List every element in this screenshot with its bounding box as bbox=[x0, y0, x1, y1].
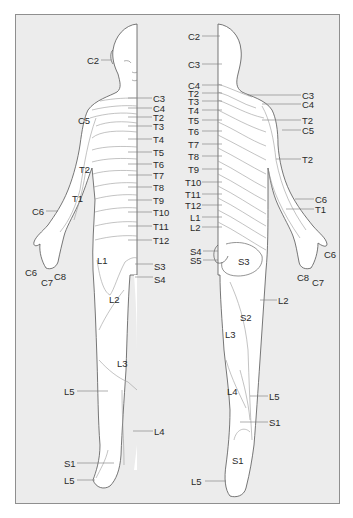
dermatome-label-l5: L5 bbox=[64, 387, 75, 397]
dermatome-label-l3: L3 bbox=[225, 330, 236, 340]
dermatome-label-t5: T5 bbox=[188, 116, 199, 126]
dermatome-label-t8: T8 bbox=[188, 152, 199, 162]
dermatome-label-t11: T11 bbox=[185, 190, 201, 200]
dermatome-label-c5: C5 bbox=[78, 116, 90, 126]
dermatome-label-c6: C6 bbox=[32, 207, 44, 217]
dermatome-label-c8: C8 bbox=[54, 272, 66, 282]
dermatome-label-s2: S2 bbox=[240, 313, 252, 323]
dermatome-label-c7: C7 bbox=[312, 278, 324, 288]
dermatome-label-t8: T8 bbox=[153, 183, 164, 193]
dermatome-label-t9: T9 bbox=[188, 165, 199, 175]
dermatome-label-t1: T1 bbox=[72, 194, 83, 204]
dermatome-label-t2: T2 bbox=[302, 155, 313, 165]
dermatome-label-t10: T10 bbox=[185, 178, 201, 188]
dermatome-label-s3: S3 bbox=[154, 262, 166, 272]
dermatome-label-l5: L5 bbox=[191, 477, 202, 487]
dermatome-label-c5: C5 bbox=[302, 126, 314, 136]
dermatome-label-l2: L2 bbox=[190, 223, 201, 233]
dermatome-label-t7: T7 bbox=[188, 140, 199, 150]
dermatome-illustration bbox=[0, 0, 353, 518]
dermatome-label-t9: T9 bbox=[153, 196, 164, 206]
dermatome-label-t6: T6 bbox=[188, 127, 199, 137]
dermatome-label-c8: C8 bbox=[297, 273, 309, 283]
dermatome-label-s1: S1 bbox=[232, 456, 244, 466]
dermatome-label-l2: L2 bbox=[278, 296, 289, 306]
dermatome-label-l4: L4 bbox=[227, 387, 238, 397]
dermatome-label-l3: L3 bbox=[117, 359, 128, 369]
dermatome-label-t6: T6 bbox=[153, 160, 164, 170]
dermatome-label-t10: T10 bbox=[153, 208, 169, 218]
dermatome-label-c7: C7 bbox=[41, 278, 53, 288]
dermatome-label-t11: T11 bbox=[153, 222, 169, 232]
dermatome-label-l1: L1 bbox=[97, 256, 108, 266]
dermatome-label-c2: C2 bbox=[188, 32, 200, 42]
dermatome-label-t12: T12 bbox=[153, 236, 169, 246]
dermatome-label-s4: S4 bbox=[154, 275, 166, 285]
dermatome-label-c3: C3 bbox=[188, 60, 200, 70]
dermatome-label-t3: T3 bbox=[153, 122, 164, 132]
dermatome-label-t12: T12 bbox=[185, 201, 201, 211]
dermatome-label-s5: S5 bbox=[190, 256, 202, 266]
dermatome-label-l5: L5 bbox=[269, 392, 280, 402]
dermatome-label-s3: S3 bbox=[238, 257, 250, 267]
dermatome-label-s1: S1 bbox=[64, 459, 76, 469]
dermatome-label-c6: C6 bbox=[25, 268, 37, 278]
dermatome-label-t4: T4 bbox=[153, 135, 164, 145]
dermatome-label-c4: C4 bbox=[302, 100, 314, 110]
dermatome-label-t7: T7 bbox=[153, 171, 164, 181]
dermatome-label-l2: L2 bbox=[109, 295, 120, 305]
dermatome-label-l5: L5 bbox=[64, 476, 75, 486]
dermatome-label-t5: T5 bbox=[153, 148, 164, 158]
dermatome-label-t1: T1 bbox=[315, 205, 326, 215]
dermatome-label-s1: S1 bbox=[269, 418, 281, 428]
dermatome-label-c6: C6 bbox=[324, 250, 336, 260]
dermatome-label-c2: C2 bbox=[87, 56, 99, 66]
dermatome-label-l4: L4 bbox=[154, 427, 165, 437]
anterior-body-figure bbox=[34, 24, 137, 488]
dermatome-label-t2: T2 bbox=[79, 165, 90, 175]
